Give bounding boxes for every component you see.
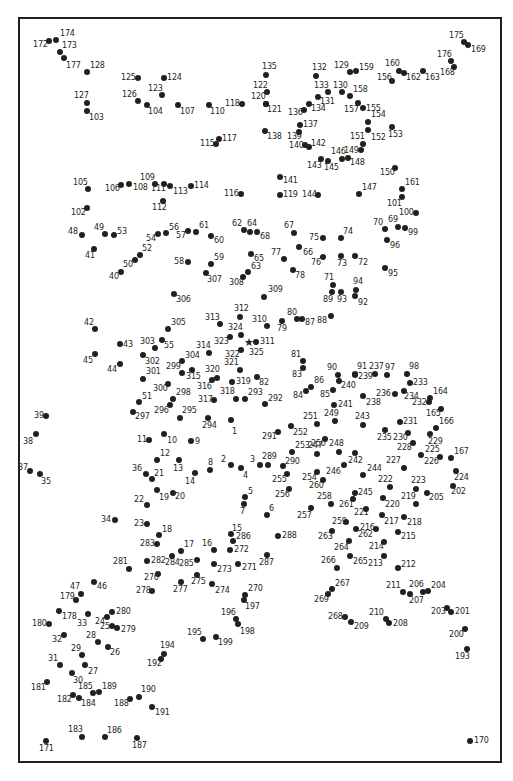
dot-number-label: 43 (123, 341, 133, 349)
puzzle-dot (328, 501, 334, 507)
dot-number-label: 162 (406, 74, 421, 82)
dot-number-label: 128 (90, 62, 105, 70)
puzzle-dot (79, 232, 85, 238)
dot-number-label: 133 (314, 82, 329, 90)
dot-number-label: 7 (240, 508, 245, 516)
puzzle-dot (207, 467, 213, 473)
dot-number-label: 320 (205, 366, 220, 374)
dot-number-label: 96 (390, 242, 400, 250)
dot-number-label: 83 (292, 371, 302, 379)
dot-number-label: 271 (242, 564, 257, 572)
dot-number-label: 31 (48, 655, 58, 663)
dot-number-label: 158 (353, 86, 368, 94)
dot-number-label: 245 (358, 489, 373, 497)
dot-number-label: 38 (23, 438, 33, 446)
dot-number-label: 238 (366, 399, 381, 407)
dot-number-label: 170 (474, 737, 489, 745)
dot-number-label: 144 (302, 191, 317, 199)
dot-number-label: 10 (167, 437, 177, 445)
dot-number-label: 233 (413, 379, 428, 387)
dot-number-label: 13 (173, 465, 183, 473)
puzzle-dot (247, 229, 253, 235)
dot-number-label: 230 (393, 434, 408, 442)
dot-number-label: 266 (321, 557, 336, 565)
dot-number-label: 39 (34, 412, 44, 420)
dot-number-label: 295 (182, 407, 197, 415)
dot-number-label: 65 (254, 255, 264, 263)
dot-number-label: 91 (357, 363, 367, 371)
dot-number-label: 244 (367, 465, 382, 473)
dot-number-label: 288 (282, 532, 297, 540)
dot-number-label: 153 (388, 131, 403, 139)
dot-number-label: 193 (455, 653, 470, 661)
puzzle-dot (79, 734, 85, 740)
dot-number-label: 78 (295, 272, 305, 280)
dot-number-label: 307 (207, 276, 222, 284)
puzzle-dot (84, 100, 90, 106)
dot-number-label: 321 (224, 359, 239, 367)
puzzle-dot (467, 738, 473, 744)
dot-number-label: 272 (234, 546, 249, 554)
dot-number-label: 134 (311, 105, 326, 113)
dot-number-label: 306 (176, 296, 191, 304)
dot-number-label: 279 (121, 626, 136, 634)
dot-number-label: 194 (160, 642, 175, 650)
dot-number-label: 11 (137, 436, 147, 444)
dot-number-label: 59 (214, 254, 224, 262)
dot-number-label: 286 (236, 533, 251, 541)
puzzle-dot (237, 314, 243, 320)
dot-number-label: 246 (326, 468, 341, 476)
dot-number-label: 46 (97, 583, 107, 591)
dot-number-label: 93 (337, 296, 347, 304)
dot-number-label: 130 (333, 82, 348, 90)
dot-number-label: 45 (83, 357, 93, 365)
dot-number-label: 63 (251, 263, 261, 271)
dot-number-label: 294 (202, 422, 217, 430)
puzzle-dot (360, 141, 366, 147)
dot-number-label: 99 (408, 229, 418, 237)
puzzle-dot (296, 244, 302, 250)
dot-number-label: 221 (354, 509, 369, 517)
dot-number-label: 169 (471, 46, 486, 54)
puzzle-dot (360, 472, 366, 478)
dot-number-label: 275 (191, 578, 206, 586)
dot-number-label: 163 (425, 74, 440, 82)
dot-number-label: 103 (89, 114, 104, 122)
dot-number-label: 71 (324, 274, 334, 282)
dot-number-label: 107 (180, 108, 195, 116)
dot-number-label: 262 (358, 531, 373, 539)
dot-number-label: 33 (77, 620, 87, 628)
dot-number-label: 179 (60, 593, 75, 601)
dot-number-label: 67 (284, 222, 294, 230)
dot-number-label: 159 (359, 64, 374, 72)
puzzle-dot (112, 517, 118, 523)
dot-number-label: 114 (194, 182, 209, 190)
dot-number-label: 242 (348, 457, 363, 465)
dot-number-label: 204 (431, 582, 446, 590)
dot-number-label: 76 (311, 259, 321, 267)
dot-number-label: 77 (271, 249, 281, 257)
dot-number-label: 287 (259, 559, 274, 567)
dot-number-label: 212 (401, 561, 416, 569)
dot-number-label: 156 (377, 74, 392, 82)
puzzle-dot (136, 694, 142, 700)
puzzle-dot (176, 457, 182, 463)
dot-number-label: 325 (249, 349, 264, 357)
puzzle-dot (263, 72, 269, 78)
dot-number-label: 302 (145, 358, 160, 366)
dot-number-label: 240 (341, 382, 356, 390)
dot-number-label: 304 (185, 352, 200, 360)
dot-number-label: 258 (317, 493, 332, 501)
dot-number-label: 248 (329, 440, 344, 448)
dot-number-label: 16 (202, 540, 212, 548)
puzzle-dot (194, 557, 200, 563)
dot-number-label: 237 (369, 363, 384, 371)
dot-number-label: 231 (403, 418, 418, 426)
dot-number-label: 20 (175, 493, 185, 501)
dot-number-label: 151 (350, 133, 365, 141)
puzzle-dot (275, 533, 281, 539)
dot-number-label: 142 (311, 140, 326, 148)
dot-number-label: 283 (140, 540, 155, 548)
puzzle-dot (328, 313, 334, 319)
dot-number-label: 22 (134, 496, 144, 504)
